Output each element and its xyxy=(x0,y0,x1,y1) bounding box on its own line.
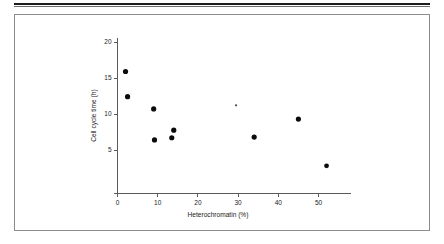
x-axis-ticks: 01020304050 xyxy=(116,194,323,207)
y-tick-label-5: 5 xyxy=(108,146,112,153)
chart-canvas: 5101520 01020304050 Heterochromatin (%) … xyxy=(0,0,444,244)
data-point xyxy=(151,106,156,111)
data-point xyxy=(125,94,130,99)
scatter-chart: 5101520 01020304050 Heterochromatin (%) … xyxy=(0,0,444,244)
x-tick-label-40: 40 xyxy=(275,199,283,206)
data-point xyxy=(152,137,157,142)
figure-page: 5101520 01020304050 Heterochromatin (%) … xyxy=(0,0,444,244)
x-tick-label-30: 30 xyxy=(234,199,242,206)
y-tick-label-15: 15 xyxy=(104,74,112,81)
y-tick-label-20: 20 xyxy=(104,38,112,45)
x-tick-label-10: 10 xyxy=(154,199,162,206)
x-tick-label-50: 50 xyxy=(315,199,323,206)
x-tick-label-0: 0 xyxy=(116,199,120,206)
data-point xyxy=(171,128,176,133)
data-point xyxy=(324,163,329,168)
y-axis-title: Cell cycle time (h) xyxy=(91,89,99,141)
x-tick-label-20: 20 xyxy=(194,199,202,206)
y-axis: 5101520 xyxy=(104,38,117,194)
data-point xyxy=(123,69,128,74)
data-point xyxy=(169,135,174,140)
x-axis: 01020304050 xyxy=(114,194,351,207)
data-point xyxy=(252,134,257,139)
data-point xyxy=(235,104,237,106)
y-axis-ticks: 5101520 xyxy=(104,38,117,153)
x-axis-title: Heterochromatin (%) xyxy=(188,211,249,219)
data-point xyxy=(296,116,301,121)
y-tick-label-10: 10 xyxy=(104,110,112,117)
data-points xyxy=(123,69,329,168)
